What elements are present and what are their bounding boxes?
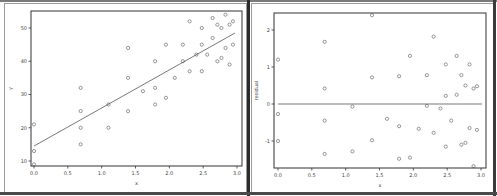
x-tick-label: 2.5 bbox=[199, 170, 207, 176]
y-tick-label: 1 bbox=[267, 64, 270, 70]
x-tick-label: 0.0 bbox=[274, 172, 282, 178]
x-tick-label: 1.0 bbox=[98, 170, 106, 176]
x-tick-label: 0.5 bbox=[64, 170, 72, 176]
y-axis-residual: -1012 bbox=[265, 27, 274, 144]
x-tick-label: 2.0 bbox=[165, 170, 173, 176]
y-tick-label: 50 bbox=[21, 25, 27, 31]
chart-residual: 0.00.51.01.52.02.53.0 -1012 x residual bbox=[253, 13, 486, 188]
x-axis-label-fit: x bbox=[135, 180, 138, 186]
x-tick-label: 0.5 bbox=[308, 172, 316, 178]
x-tick-label: 3.0 bbox=[477, 172, 485, 178]
y-tick-label: -1 bbox=[265, 138, 270, 144]
y-tick-label: 2 bbox=[267, 27, 270, 33]
x-axis-label-residual: x bbox=[379, 182, 382, 188]
y-axis-label-fit: y bbox=[7, 87, 14, 90]
y-tick-label: 10 bbox=[21, 158, 27, 164]
x-axis-residual: 0.00.51.01.52.02.53.0 bbox=[274, 168, 485, 178]
y-tick-label: 40 bbox=[21, 58, 27, 64]
x-tick-label: 2.5 bbox=[443, 172, 451, 178]
x-tick-label: 0.0 bbox=[30, 170, 38, 176]
charts-canvas: 0.00.51.01.52.02.53.0 1020304050 x y 0.0… bbox=[0, 0, 497, 196]
chart-fit: 0.00.51.01.52.02.53.0 1020304050 x y bbox=[7, 11, 242, 186]
x-tick-label: 2.0 bbox=[409, 172, 417, 178]
y-axis-fit: 1020304050 bbox=[21, 25, 31, 164]
x-tick-label: 1.5 bbox=[132, 170, 140, 176]
x-tick-label: 3.0 bbox=[233, 170, 241, 176]
y-tick-label: 0 bbox=[267, 101, 270, 107]
x-tick-label: 1.5 bbox=[376, 172, 384, 178]
y-tick-label: 20 bbox=[21, 125, 27, 131]
y-axis-label-residual: residual bbox=[253, 81, 259, 101]
plot-area-residual bbox=[274, 13, 486, 168]
y-tick-label: 30 bbox=[21, 91, 27, 97]
x-tick-label: 1.0 bbox=[342, 172, 350, 178]
x-axis-fit: 0.00.51.01.52.02.53.0 bbox=[30, 166, 241, 176]
